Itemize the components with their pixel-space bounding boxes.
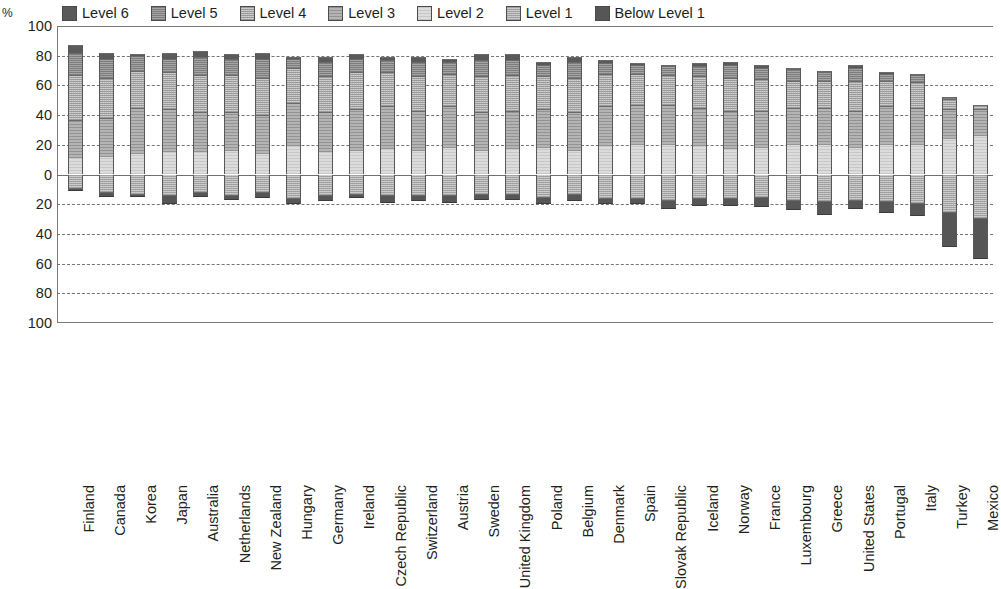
legend-label: Level 6 bbox=[82, 6, 129, 21]
bar-denmark[interactable] bbox=[598, 26, 613, 323]
legend-item-level-6[interactable]: Level 6 bbox=[62, 6, 129, 21]
bar-segment-level-2 bbox=[224, 151, 239, 175]
bar-segment-level-4 bbox=[973, 105, 988, 109]
legend-item-level-3[interactable]: Level 3 bbox=[328, 6, 395, 21]
bar-segment-level-3 bbox=[411, 111, 426, 151]
legend-item-below-level-1[interactable]: Below Level 1 bbox=[595, 6, 705, 21]
bar-united-states[interactable] bbox=[848, 26, 863, 323]
legend-swatch-icon bbox=[240, 6, 255, 21]
bar-luxembourg[interactable] bbox=[786, 26, 801, 323]
bar-segment-level-5 bbox=[910, 75, 925, 82]
bar-australia[interactable] bbox=[193, 26, 208, 323]
bar-segment-level-6 bbox=[598, 60, 613, 63]
bar-segment-below-level-1 bbox=[474, 194, 489, 200]
bar-segment-level-5 bbox=[411, 62, 426, 77]
bar-segment-level-1 bbox=[224, 175, 239, 196]
bar-italy[interactable] bbox=[910, 26, 925, 323]
bar-segment-level-1 bbox=[692, 175, 707, 199]
x-axis-label: Greece bbox=[830, 485, 845, 533]
y-axis-tick-label: 40 bbox=[36, 227, 52, 242]
legend-item-level-4[interactable]: Level 4 bbox=[240, 6, 307, 21]
bar-segment-level-3 bbox=[598, 106, 613, 146]
bar-iceland[interactable] bbox=[692, 26, 707, 323]
legend-label: Level 2 bbox=[437, 6, 484, 21]
bar-greece[interactable] bbox=[817, 26, 832, 323]
bar-segment-level-2 bbox=[286, 146, 301, 174]
bar-segment-level-1 bbox=[910, 175, 925, 203]
bar-segment-level-2 bbox=[786, 145, 801, 175]
bar-new-zealand[interactable] bbox=[255, 26, 270, 323]
bar-segment-level-3 bbox=[879, 106, 894, 145]
bar-segment-level-5 bbox=[224, 59, 239, 75]
legend-swatch-icon bbox=[417, 6, 432, 21]
bar-segment-level-1 bbox=[68, 175, 83, 188]
bar-segment-level-5 bbox=[567, 62, 582, 78]
bar-segment-level-2 bbox=[723, 149, 738, 174]
legend-item-level-5[interactable]: Level 5 bbox=[151, 6, 218, 21]
bar-slovak-republic[interactable] bbox=[661, 26, 676, 323]
y-axis-tick-label: 60 bbox=[36, 256, 52, 271]
bar-segment-below-level-1 bbox=[879, 201, 894, 213]
bar-segment-level-1 bbox=[349, 175, 364, 194]
plot-area: 10080604020020406080100 bbox=[57, 26, 993, 323]
bar-segment-level-3 bbox=[474, 112, 489, 151]
x-axis-label: Czech Republic bbox=[394, 485, 409, 587]
bar-segment-level-2 bbox=[536, 148, 551, 175]
bar-korea[interactable] bbox=[130, 26, 145, 323]
bar-segment-below-level-1 bbox=[723, 198, 738, 205]
bar-segment-level-3 bbox=[255, 115, 270, 154]
bar-segment-below-level-1 bbox=[910, 203, 925, 216]
x-axis-label: Spain bbox=[643, 485, 658, 522]
bar-spain[interactable] bbox=[630, 26, 645, 323]
bar-hungary[interactable] bbox=[286, 26, 301, 323]
bar-netherlands[interactable] bbox=[224, 26, 239, 323]
bar-segment-below-level-1 bbox=[442, 195, 457, 202]
bar-poland[interactable] bbox=[536, 26, 551, 323]
bar-segment-below-level-1 bbox=[598, 198, 613, 204]
bar-segment-level-4 bbox=[68, 75, 83, 120]
bar-segment-level-6 bbox=[723, 62, 738, 65]
bar-segment-level-3 bbox=[349, 109, 364, 151]
bar-japan[interactable] bbox=[162, 26, 177, 323]
bar-germany[interactable] bbox=[318, 26, 333, 323]
x-axis-label: Switzerland bbox=[425, 485, 440, 560]
bar-segment-level-6 bbox=[848, 65, 863, 68]
bar-mexico[interactable] bbox=[973, 26, 988, 323]
bar-segment-level-5 bbox=[692, 66, 707, 76]
bar-segment-below-level-1 bbox=[630, 198, 645, 204]
bar-segment-below-level-1 bbox=[942, 212, 957, 248]
bar-ireland[interactable] bbox=[349, 26, 364, 323]
bar-switzerland[interactable] bbox=[411, 26, 426, 323]
bar-segment-level-3 bbox=[942, 109, 957, 139]
bar-portugal[interactable] bbox=[879, 26, 894, 323]
legend-item-level-1[interactable]: Level 1 bbox=[506, 6, 573, 21]
bar-segment-level-6 bbox=[380, 57, 395, 60]
bar-segment-level-4 bbox=[318, 76, 333, 112]
bar-segment-level-1 bbox=[848, 175, 863, 200]
bar-segment-level-6 bbox=[68, 45, 83, 52]
bar-austria[interactable] bbox=[442, 26, 457, 323]
legend-item-level-2[interactable]: Level 2 bbox=[417, 6, 484, 21]
x-axis-label: Iceland bbox=[706, 485, 721, 532]
bar-segment-level-2 bbox=[380, 149, 395, 174]
bar-norway[interactable] bbox=[723, 26, 738, 323]
x-axis-label: Turkey bbox=[955, 485, 970, 529]
bar-france[interactable] bbox=[754, 26, 769, 323]
bar-sweden[interactable] bbox=[474, 26, 489, 323]
bar-segment-level-4 bbox=[162, 72, 177, 109]
bar-canada[interactable] bbox=[99, 26, 114, 323]
bar-finland[interactable] bbox=[68, 26, 83, 323]
bar-segment-level-4 bbox=[786, 81, 801, 108]
bar-segment-level-3 bbox=[286, 103, 301, 146]
legend-swatch-icon bbox=[506, 6, 521, 21]
bar-segment-level-3 bbox=[224, 112, 239, 151]
bar-czech-republic[interactable] bbox=[380, 26, 395, 323]
bar-united-kingdom[interactable] bbox=[505, 26, 520, 323]
bar-segment-level-2 bbox=[754, 148, 769, 175]
bar-segment-level-1 bbox=[474, 175, 489, 194]
bar-segment-level-6 bbox=[474, 54, 489, 60]
bar-belgium[interactable] bbox=[567, 26, 582, 323]
bar-turkey[interactable] bbox=[942, 26, 957, 323]
x-axis-label: New Zealand bbox=[269, 485, 284, 570]
bar-segment-level-1 bbox=[567, 175, 582, 194]
